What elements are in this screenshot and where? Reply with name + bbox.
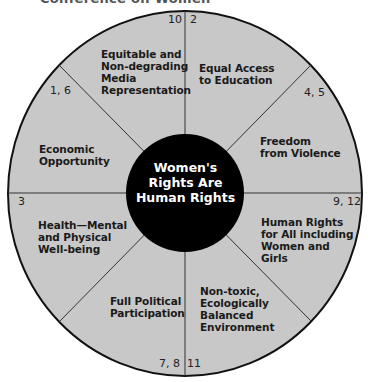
segment-media-label: Equitable and Non-degrading Media Repres… bbox=[101, 48, 191, 96]
center-line: Women's bbox=[127, 160, 244, 175]
segment-education-label: Equal Access to Education bbox=[199, 62, 275, 86]
segment-health-numbers: 3 bbox=[18, 196, 25, 208]
segment-violence-label: Freedom from Violence bbox=[260, 135, 341, 159]
segment-economic-label: Economic Opportunity bbox=[39, 143, 110, 167]
segment-political-label: Full Political Participation bbox=[110, 295, 185, 319]
center-line: Human Rights bbox=[127, 190, 244, 205]
segment-human-rights-numbers: 9, 12 bbox=[333, 196, 361, 208]
segment-violence-numbers: 4, 5 bbox=[304, 87, 325, 99]
segment-media-numbers: 10 bbox=[168, 14, 182, 26]
segment-human-rights-label: Human Rights for All including Women and… bbox=[261, 216, 353, 264]
segment-environment-numbers: 11 bbox=[187, 358, 201, 370]
segment-economic-numbers: 1, 6 bbox=[50, 85, 71, 97]
segment-environment-label: Non-toxic, Ecologically Balanced Environ… bbox=[200, 285, 274, 333]
segment-political-numbers: 7, 8 bbox=[159, 358, 180, 370]
center-hub-text: Women's Rights Are Human Rights bbox=[127, 160, 244, 205]
segment-education-numbers: 2 bbox=[190, 14, 197, 26]
center-line: Rights Are bbox=[127, 175, 244, 190]
segment-health-label: Health—Mental and Physical Well-being bbox=[38, 219, 127, 255]
